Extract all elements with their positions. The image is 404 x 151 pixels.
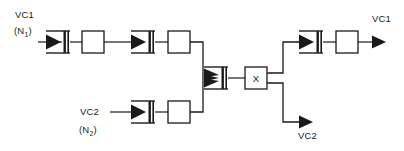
- wire-bottom-to-merge: [190, 78, 203, 112]
- wire-top-to-merge: [190, 42, 203, 78]
- flow-top-vc1: [38, 31, 203, 78]
- flow-bottom-vc2: [110, 78, 203, 123]
- label-input-vc1-count-prefix: (N: [14, 25, 24, 36]
- label-input-vc2-count: (N2): [79, 125, 97, 137]
- label-output-vc2: VC2: [298, 131, 317, 141]
- diagram-canvas: X VC1 (N1) VC2 (N2) VC1 VC2: [0, 0, 404, 151]
- funnel-multiplexer-merge: [204, 67, 228, 89]
- wire-x-to-out-vc1: [267, 42, 299, 73]
- flow-out-vc1: [299, 31, 386, 53]
- funnel-multiplexer-in-vc2-1: [131, 101, 155, 123]
- funnel-multiplexer-in-vc1-2: [131, 31, 155, 53]
- flow-center-crossconnect: X: [204, 42, 299, 122]
- process-box-in-vc1-1: [82, 31, 104, 53]
- arrow-out-vc1: [372, 36, 386, 49]
- label-input-vc1-count: (N1): [14, 26, 32, 38]
- arrow-out-vc2: [299, 116, 313, 129]
- flow-out-vc2: [299, 116, 313, 129]
- funnel-multiplexer-in-vc1-1: [46, 31, 70, 53]
- label-input-vc1: VC1: [15, 10, 34, 20]
- label-input-vc2-count-suffix: ): [94, 124, 97, 135]
- signal-flow-diagram: X: [0, 0, 404, 151]
- wire-x-to-out-vc2: [267, 83, 299, 122]
- cross-connect-label: X: [253, 73, 260, 84]
- process-box-out-vc1: [336, 31, 358, 53]
- label-input-vc1-count-suffix: ): [29, 25, 32, 36]
- label-output-vc1: VC1: [372, 14, 391, 24]
- funnel-multiplexer-out-vc1: [299, 31, 323, 53]
- process-box-in-vc2-1: [168, 101, 190, 123]
- process-box-in-vc1-2: [168, 31, 190, 53]
- label-input-vc2: VC2: [80, 107, 99, 117]
- label-input-vc2-count-prefix: (N: [79, 124, 89, 135]
